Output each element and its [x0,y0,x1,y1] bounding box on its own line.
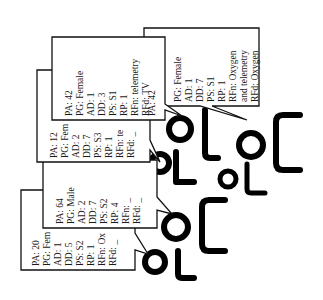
callout-line: AD: 1 [184,78,194,102]
patient-body-icon [205,110,218,158]
callout-line: RP: 1 [119,94,129,116]
patient-body-icon [178,251,194,278]
patient-body-icon [276,115,300,170]
callout-line: DD: 7 [195,78,205,102]
callout-line: RFn: _ [121,198,131,224]
patient-head-icon [145,252,165,272]
callout-line: PS: S2 [75,240,85,266]
patient-body-icon [247,164,265,193]
callout-line: RFn: te [115,130,125,158]
callout-line: PA: 20 [31,240,41,266]
callout-c4: PA: 64 PG: Male AD: 2 DD: 7 PS: S2 RP: 4… [43,160,172,228]
callout-line: RFd: _ [108,240,118,266]
callout-line: PA: 64 [55,198,65,224]
callout-line: AD: 2 [77,200,87,224]
patient-body-icon [176,152,194,182]
callout-line: RFd: _ [132,198,142,224]
callout-c2: PA: 42 PG: Female AD: 1 DD: 3 PS: S1 RP:… [52,37,182,120]
callout-line: PS: S3 [93,132,103,158]
callout-line: PG: Fem [42,231,52,266]
callout-line: DD: 3 [97,92,107,116]
callout-line: RFn: Ox [97,233,107,266]
callout-line: PS: S1 [206,76,216,102]
callout-line: RFn: telemetry [130,58,140,116]
patient-body-icon [202,200,225,251]
patient-head-icon [169,118,191,140]
callout-line: RP: 4 [110,202,120,224]
callout-line: DD: 5 [64,242,74,266]
callout-line: DD: 7 [88,200,98,224]
callout-line: PA: 42 [147,90,157,116]
callout-line: PA: 42 [64,90,74,116]
callout-line: PS: S2 [99,198,109,224]
callout-line: PG: Male [66,187,76,224]
callout-line: AD: 1 [86,92,96,116]
callout-line: RFd: _ [126,132,136,158]
callout-line: DD: 7 [82,134,92,158]
patient-head-icon [220,171,236,187]
patient-icon-p2 [239,115,300,170]
patient-icon-p5 [164,200,225,251]
callout-line: AD: 2 [71,134,81,158]
callout-line: RP: 1 [217,80,227,102]
callout-line: RFn: Oxygen [228,50,238,102]
patient-head-icon [239,133,263,157]
callout-line: RP: 1 [86,244,96,266]
diagram-canvas: PA: 20 PG: Fem AD: 1 DD: 5 PS: S2 RP: 1 … [0,0,323,300]
patient-head-icon [164,215,188,239]
callout-line: AD: 1 [53,242,63,266]
callout-line: PG: Female [173,57,183,102]
patient-icon-p6 [145,251,194,278]
callout-line: PA: 12 [49,132,59,158]
callout-line: PS: S1 [108,90,118,116]
patient-icon-p3 [220,164,265,193]
callout-line: RP: 1 [104,136,114,158]
callout-line: PG: Fem [60,123,70,158]
callout-line: and telemetry [239,50,249,102]
callout-line: PG: Female [75,71,85,116]
callout-line: RFd: Oxygen [250,50,260,102]
